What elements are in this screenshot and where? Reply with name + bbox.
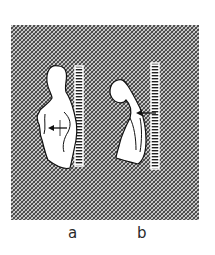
panel-a-label: a bbox=[68, 226, 77, 241]
wall-ruler-b bbox=[151, 63, 159, 169]
wall-ruler-a bbox=[75, 66, 83, 166]
illustration bbox=[0, 0, 215, 255]
panel-b-label: b bbox=[137, 226, 147, 241]
